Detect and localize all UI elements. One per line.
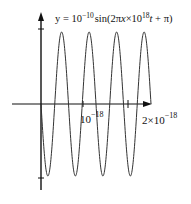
x-tick-label-1: 10−18 — [80, 110, 104, 125]
sine-wave-chart: y = 10−10sin(2πx×1018t + π) 10−18 2×10−1… — [0, 0, 191, 204]
x-tick-label-2: 2×10−18 — [142, 111, 177, 126]
equation-label: y = 10−10sin(2πx×1018t + π) — [55, 11, 173, 25]
y-axis-arrow-icon — [38, 12, 44, 21]
